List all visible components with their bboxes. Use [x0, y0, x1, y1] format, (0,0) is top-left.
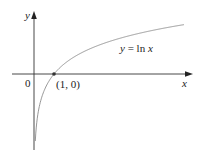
- x-axis-arrow-icon: [185, 71, 193, 77]
- curve-equation-label: y = ln x: [120, 43, 153, 54]
- y-axis-arrow-icon: [31, 11, 37, 19]
- y-axis-label: y: [25, 10, 30, 21]
- point-label: (1, 0): [56, 79, 80, 90]
- x-axis-label: x: [182, 78, 187, 89]
- curve-eq-mid: = ln: [125, 42, 148, 54]
- curve-eq-x: x: [148, 42, 153, 54]
- origin-label: 0: [25, 78, 31, 89]
- point-marker-1-0: [52, 72, 56, 76]
